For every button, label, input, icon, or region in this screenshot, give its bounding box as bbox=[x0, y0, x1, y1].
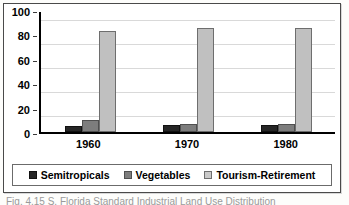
x-label-1980: 1980 bbox=[236, 138, 335, 154]
y-tick-label-60: 60 bbox=[18, 57, 30, 65]
legend-swatch-icon-2 bbox=[204, 171, 212, 179]
y-axis: 020406080100 bbox=[4, 12, 37, 134]
legend-label: Tourism-Retirement bbox=[216, 169, 315, 181]
bar-vegetables-1960 bbox=[82, 120, 99, 132]
y-tick-mark-20 bbox=[33, 110, 37, 111]
bar-tourism-retirement-1980 bbox=[295, 28, 312, 132]
y-tick-mark-100 bbox=[33, 12, 37, 13]
legend-item-tourism-retirement: Tourism-Retirement bbox=[204, 169, 315, 181]
figure-caption-text: Fig. 4.15 S. Florida Standard Industrial… bbox=[6, 197, 343, 205]
legend-label: Semitropicals bbox=[41, 169, 110, 181]
bar-semitropicals-1980 bbox=[261, 125, 278, 132]
figure-caption: Fig. 4.15 S. Florida Standard Industrial… bbox=[6, 197, 343, 205]
y-tick-label-80: 80 bbox=[18, 32, 30, 40]
x-axis-category-labels: 196019701980 bbox=[39, 138, 335, 154]
y-tick-label-40: 40 bbox=[18, 81, 30, 89]
bar-group-1960 bbox=[41, 12, 139, 132]
legend-label: Vegetables bbox=[136, 169, 191, 181]
scanned-page: 020406080100 196019701980 SemitropicalsV… bbox=[0, 0, 349, 205]
plot-wrapper: 020406080100 bbox=[4, 4, 340, 147]
y-tick-label-0: 0 bbox=[24, 130, 30, 138]
bar-group-1970 bbox=[139, 12, 237, 132]
y-tick-mark-80 bbox=[33, 36, 37, 37]
legend-item-vegetables: Vegetables bbox=[124, 169, 191, 181]
bar-vegetables-1980 bbox=[278, 124, 295, 132]
y-tick-mark-40 bbox=[33, 85, 37, 86]
legend-item-semitropicals: Semitropicals bbox=[29, 169, 110, 181]
plot-area bbox=[39, 12, 335, 134]
chart-figure: 020406080100 196019701980 SemitropicalsV… bbox=[3, 3, 341, 193]
x-label-1970: 1970 bbox=[138, 138, 237, 154]
bar-groups bbox=[41, 12, 335, 132]
x-label-1960: 1960 bbox=[39, 138, 138, 154]
bar-vegetables-1970 bbox=[180, 124, 197, 132]
y-tick-label-20: 20 bbox=[18, 106, 30, 114]
y-tick-label-100: 100 bbox=[12, 8, 30, 16]
bar-tourism-retirement-1970 bbox=[197, 28, 214, 132]
legend-swatch-icon-1 bbox=[124, 171, 132, 179]
bar-tourism-retirement-1960 bbox=[99, 31, 116, 132]
legend-swatch-icon-0 bbox=[29, 171, 37, 179]
bar-semitropicals-1970 bbox=[163, 125, 180, 132]
y-tick-mark-60 bbox=[33, 61, 37, 62]
chart-legend: SemitropicalsVegetablesTourism-Retiremen… bbox=[12, 164, 332, 186]
y-tick-mark-0 bbox=[33, 134, 37, 135]
bar-semitropicals-1960 bbox=[65, 126, 82, 132]
bar-group-1980 bbox=[237, 12, 335, 132]
